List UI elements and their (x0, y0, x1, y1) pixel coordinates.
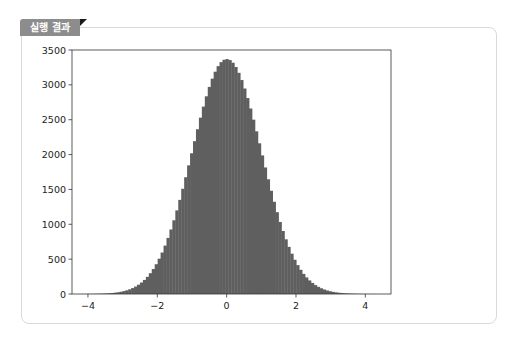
histogram-bar (172, 220, 175, 294)
histogram-bar (225, 59, 228, 294)
histogram-bar (270, 191, 273, 294)
y-tick-label: 3500 (42, 45, 66, 56)
histogram-bar (252, 120, 255, 294)
histogram-bar (178, 200, 181, 294)
histogram-bar (175, 210, 178, 294)
histogram-bar (166, 238, 169, 294)
histogram-bar (276, 212, 279, 294)
histogram-bar (134, 287, 137, 294)
histogram-bar (302, 274, 305, 294)
histogram-bar (199, 118, 202, 294)
histogram-bar (317, 287, 320, 294)
histogram-bar (155, 264, 158, 294)
histogram-bar (158, 259, 161, 294)
histogram-bar (125, 290, 128, 294)
y-tick-label: 500 (48, 254, 66, 265)
histogram-bar (258, 143, 261, 294)
y-tick-label: 2500 (42, 114, 66, 125)
histogram-bar (329, 291, 332, 294)
histogram-bar (281, 231, 284, 294)
histogram-bar (249, 109, 252, 294)
y-tick-label: 0 (60, 289, 66, 300)
histogram-bar (152, 269, 155, 294)
histogram-bar (196, 129, 199, 294)
histogram-bar (311, 283, 314, 294)
x-tick-label: 4 (362, 300, 368, 311)
y-tick-label: 1000 (42, 219, 66, 230)
histogram-bar (240, 80, 243, 294)
x-tick-label: −4 (81, 300, 95, 311)
histogram-bar (234, 67, 237, 294)
x-tick-label: 0 (224, 300, 230, 311)
histogram-bar (305, 277, 308, 294)
histogram-bar (290, 254, 293, 294)
histogram-bar (228, 60, 231, 294)
y-tick-label: 3000 (42, 79, 66, 90)
histogram-bar (267, 179, 270, 294)
histogram-bar (323, 289, 326, 294)
histogram-bar (237, 73, 240, 294)
histogram-bar (137, 285, 140, 294)
histogram-bar (208, 87, 211, 294)
histogram-bar (193, 141, 196, 294)
histogram-bar (273, 202, 276, 294)
histogram-bar (161, 253, 164, 294)
x-tick-label: 2 (293, 300, 299, 311)
histogram-bar (205, 96, 208, 294)
histogram-bar (326, 290, 329, 294)
histogram-bar (181, 189, 184, 294)
histogram-bar (299, 270, 302, 294)
histogram-bar (243, 89, 246, 294)
histogram-bar (146, 277, 149, 294)
histogram-bar (217, 66, 220, 294)
histogram-bar (287, 247, 290, 294)
histogram-bar (264, 167, 267, 294)
histogram-bar (140, 283, 143, 294)
histogram-bar (293, 260, 296, 294)
histogram-bar (164, 246, 167, 294)
histogram-bar (211, 79, 214, 294)
histogram-bar (296, 265, 299, 294)
histogram-bar (222, 60, 225, 294)
histogram-bar (122, 291, 125, 294)
histogram-bar (184, 177, 187, 294)
histogram-bar (187, 165, 190, 294)
histogram-bar (314, 285, 317, 294)
histogram-bar (131, 288, 134, 294)
histogram-bar (320, 288, 323, 294)
y-tick-label: 2000 (42, 149, 66, 160)
histogram-bar (278, 222, 281, 294)
histogram-bar (169, 229, 172, 294)
histogram-bar (255, 131, 258, 294)
histogram-bar (246, 98, 249, 294)
histogram-bar (284, 239, 287, 294)
histogram-bar (128, 289, 131, 294)
y-tick-label: 1500 (42, 184, 66, 195)
histogram-bar (220, 62, 223, 294)
histogram-bar (261, 155, 264, 294)
histogram-bar (214, 72, 217, 294)
histogram-chart: 0500100015002000250030003500−4−2024 (0, 0, 517, 346)
histogram-bar (143, 280, 146, 294)
histogram-bar (231, 63, 234, 294)
histogram-bar (190, 153, 193, 294)
histogram-bar (149, 273, 152, 294)
x-tick-label: −2 (150, 300, 164, 311)
histogram-bar (308, 280, 311, 294)
histogram-bar (202, 107, 205, 294)
